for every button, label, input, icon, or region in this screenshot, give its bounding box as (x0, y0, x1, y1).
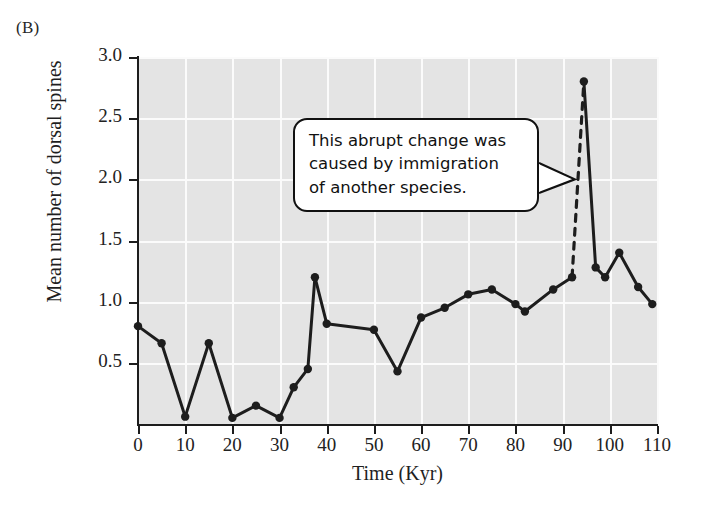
y-axis-tick-label: 2.0 (82, 166, 122, 188)
y-axis-tick (129, 179, 137, 181)
y-axis-tick (129, 363, 137, 365)
callout-line-1: This abrupt change was (309, 129, 524, 152)
y-axis-tick-label: 1.0 (82, 289, 122, 311)
y-axis-tick (129, 57, 137, 59)
y-axis-tick-label: 0.5 (82, 350, 122, 372)
x-axis-tick (280, 426, 282, 434)
x-axis-label: Time (Kyr) (138, 462, 657, 485)
y-axis-tick-label: 2.5 (82, 105, 122, 127)
figure-panel-b: (B) Mean number of dorsal spines Time (K… (0, 0, 707, 508)
x-axis-tick (185, 426, 187, 434)
gridline-horizontal (138, 302, 657, 304)
callout-line-2: caused by immigration (309, 152, 524, 175)
panel-label: (B) (16, 18, 40, 38)
x-axis-tick (468, 426, 470, 434)
y-axis-tick (129, 302, 137, 304)
x-axis-tick-label: 50 (350, 434, 398, 456)
x-axis-tick (657, 426, 659, 434)
x-axis-tick (421, 426, 423, 434)
x-axis-tick-label: 30 (256, 434, 304, 456)
y-axis-line (137, 56, 139, 426)
x-axis-tick (232, 426, 234, 434)
x-axis-line (137, 424, 658, 426)
x-axis-tick-label: 80 (491, 434, 539, 456)
y-axis-label: Mean number of dorsal spines (43, 32, 66, 332)
x-axis-tick-label: 0 (114, 434, 162, 456)
gridline-horizontal (138, 241, 657, 243)
x-axis-tick-label: 10 (161, 434, 209, 456)
x-axis-tick (374, 426, 376, 434)
callout-line-3: of another species. (309, 176, 524, 199)
x-axis-tick (515, 426, 517, 434)
x-axis-tick (138, 426, 140, 434)
x-axis-tick (610, 426, 612, 434)
x-axis-tick-label: 110 (633, 434, 681, 456)
x-axis-tick-label: 20 (208, 434, 256, 456)
x-axis-tick-label: 60 (397, 434, 445, 456)
y-axis-tick (129, 241, 137, 243)
gridline-vertical (657, 57, 659, 424)
x-axis-tick-label: 90 (539, 434, 587, 456)
gridline-horizontal (138, 363, 657, 365)
plot-area (138, 57, 657, 424)
x-axis-tick-label: 70 (444, 434, 492, 456)
y-axis-tick-label: 1.5 (82, 228, 122, 250)
y-axis-tick-label: 3.0 (82, 44, 122, 66)
y-axis-tick (129, 118, 137, 120)
x-axis-tick (327, 426, 329, 434)
gridline-horizontal (138, 57, 657, 59)
immigration-callout: This abrupt change was caused by immigra… (293, 118, 539, 212)
x-axis-tick-label: 40 (303, 434, 351, 456)
x-axis-tick-label: 100 (586, 434, 634, 456)
x-axis-tick (563, 426, 565, 434)
